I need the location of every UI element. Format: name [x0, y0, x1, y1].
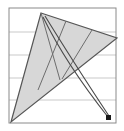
geometric-figure-panel: [0, 0, 124, 131]
trajectory-endpoint-marker: [106, 115, 111, 120]
geometric-figure-svg: [0, 0, 124, 131]
